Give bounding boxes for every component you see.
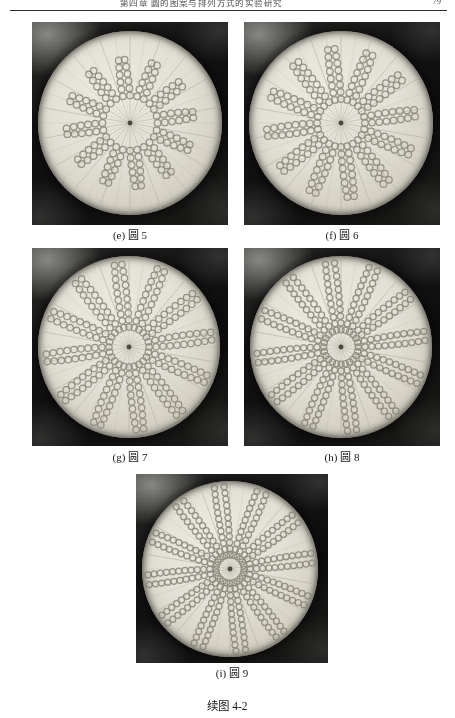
disc-pattern-f xyxy=(244,22,440,225)
panel-caption-i: (i) 圆 9 xyxy=(136,666,328,680)
figure-caption: 续图 4-2 xyxy=(0,697,455,713)
header-rule xyxy=(10,10,447,11)
running-head-title: 第四章 圆的图案与排列方式的实验研究 xyxy=(120,0,282,8)
photo-h xyxy=(244,248,440,446)
disc-hub xyxy=(127,345,132,350)
disc-pattern-g xyxy=(32,248,228,446)
disc-pattern-i xyxy=(136,474,328,663)
photo-g xyxy=(32,248,228,446)
disc-hub xyxy=(228,567,233,572)
panel-caption-g: (g) 圆 7 xyxy=(32,450,228,464)
disc-pattern-h xyxy=(244,248,440,446)
panel-caption-f: (f) 圆 6 xyxy=(244,228,440,242)
panel-caption-e: (e) 圆 5 xyxy=(32,228,228,242)
disc-hub xyxy=(128,121,133,126)
panel-caption-h: (h) 圆 8 xyxy=(244,450,440,464)
page-number: 79 xyxy=(433,0,442,6)
photo-e xyxy=(32,22,228,225)
disc-hub xyxy=(339,121,344,126)
disc-hub xyxy=(339,345,344,350)
photo-f xyxy=(244,22,440,225)
running-head: 第四章 圆的图案与排列方式的实验研究 79 xyxy=(0,0,455,9)
disc-pattern-e xyxy=(32,22,228,225)
photo-i xyxy=(136,474,328,663)
